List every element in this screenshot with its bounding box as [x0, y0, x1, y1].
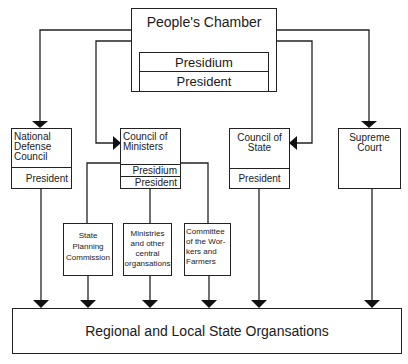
- spc-line-2: Planning: [64, 241, 112, 252]
- min-line-4: organsations: [122, 258, 173, 269]
- president-label: President: [140, 74, 268, 89]
- peoples-chamber-box: People's Chamber Presidium President: [131, 8, 277, 92]
- supreme-court-box: Supreme Court: [338, 128, 401, 189]
- council-of-state-box: Council of State President: [229, 128, 290, 189]
- peoples-chamber-presidium: Presidium: [139, 52, 269, 72]
- cwf-line-4: Farmers: [186, 256, 216, 267]
- peoples-chamber-president: President: [139, 71, 269, 92]
- committee-box: Committee of the Wor- kers and Farmers: [184, 223, 231, 276]
- com-president: President: [135, 177, 177, 188]
- cos-president: President: [230, 173, 289, 184]
- cos-title-2: State: [230, 142, 289, 153]
- council-of-ministers-box: Council of Ministers Presidium President: [120, 128, 181, 189]
- spc-line-3: Commission: [64, 252, 112, 263]
- com-title-2: Ministers: [123, 141, 163, 152]
- presidium-label: Presidium: [140, 55, 268, 70]
- ndc-president: President: [26, 173, 68, 184]
- ndc-title-3: Council: [14, 151, 47, 162]
- regional-title: Regional and Local State Organsations: [13, 323, 401, 339]
- national-defense-council-box: National Defense Council President: [11, 128, 72, 189]
- sc-title-2: Court: [339, 142, 400, 153]
- spc-line-1: State: [64, 230, 112, 241]
- ministries-box: Ministries and other central organsation…: [123, 223, 172, 276]
- peoples-chamber-title: People's Chamber: [132, 14, 276, 30]
- com-presidium: Presidium: [133, 165, 177, 176]
- state-planning-commission-box: State Planning Commission: [63, 223, 113, 276]
- regional-local-box: Regional and Local State Organsations: [12, 308, 402, 354]
